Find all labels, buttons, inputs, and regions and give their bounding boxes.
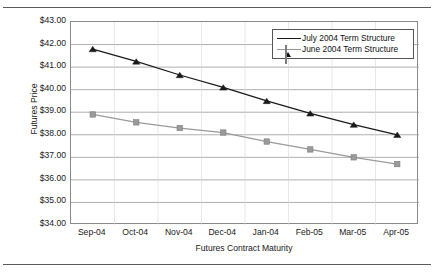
data-point-triangle [89, 46, 96, 51]
data-point-square [264, 139, 269, 144]
legend-item-june: June 2004 Term Structure [276, 44, 409, 55]
x-tick-label: Jan-04 [253, 227, 279, 237]
data-point-square [134, 120, 139, 125]
data-point-square [221, 130, 226, 135]
y-tick-label: $36.00 [14, 173, 66, 183]
x-tick-label: Sep-04 [78, 227, 106, 237]
data-point-triangle [307, 111, 314, 116]
y-tick-label: $35.00 [14, 195, 66, 205]
y-tick-label: $40.00 [14, 83, 66, 93]
y-axis-tick-labels: $43.00$42.00$41.00$40.00$39.00$38.00$37.… [14, 0, 66, 273]
data-point-square [351, 155, 356, 160]
legend-swatch-june [276, 44, 302, 55]
x-tick-label: Dec-04 [208, 227, 236, 237]
legend-label-july: July 2004 Term Structure [302, 33, 395, 44]
y-tick-label: $43.00 [14, 15, 66, 25]
square-marker-icon [285, 46, 287, 64]
legend-item-july: July 2004 Term Structure [276, 33, 409, 44]
data-point-triangle [133, 59, 140, 64]
bottom-divider-rule [3, 264, 431, 265]
legend-label-june: June 2004 Term Structure [302, 44, 398, 55]
data-point-square [90, 112, 95, 117]
data-point-square [177, 125, 182, 130]
legend-line-june [277, 49, 301, 50]
top-divider-rule [3, 7, 431, 8]
x-axis-tick-labels: Sep-04Oct-04Nov-04Dec-04Jan-04Feb-05Mar-… [70, 227, 418, 241]
data-point-triangle [176, 72, 183, 77]
y-tick-label: $41.00 [14, 60, 66, 70]
y-tick-label: $34.00 [14, 218, 66, 228]
legend-swatch-july [276, 33, 302, 44]
x-tick-label: Mar-05 [339, 227, 366, 237]
x-tick-label: Apr-05 [383, 227, 409, 237]
y-tick-label: $39.00 [14, 105, 66, 115]
data-point-triangle [220, 85, 227, 90]
x-tick-label: Oct-04 [122, 227, 148, 237]
x-axis-title: Futures Contract Maturity [70, 243, 418, 253]
data-point-square [308, 147, 313, 152]
y-tick-label: $42.00 [14, 38, 66, 48]
chart-legend: July 2004 Term Structure June 2004 Term … [272, 29, 414, 59]
y-tick-label: $38.00 [14, 128, 66, 138]
data-point-triangle [263, 98, 270, 103]
y-tick-label: $37.00 [14, 150, 66, 160]
x-tick-label: Feb-05 [296, 227, 323, 237]
data-point-square [395, 161, 400, 166]
x-tick-label: Nov-04 [165, 227, 193, 237]
chart-figure: Exhibit 3 — Term Structure for Crude Oil… [0, 0, 434, 273]
